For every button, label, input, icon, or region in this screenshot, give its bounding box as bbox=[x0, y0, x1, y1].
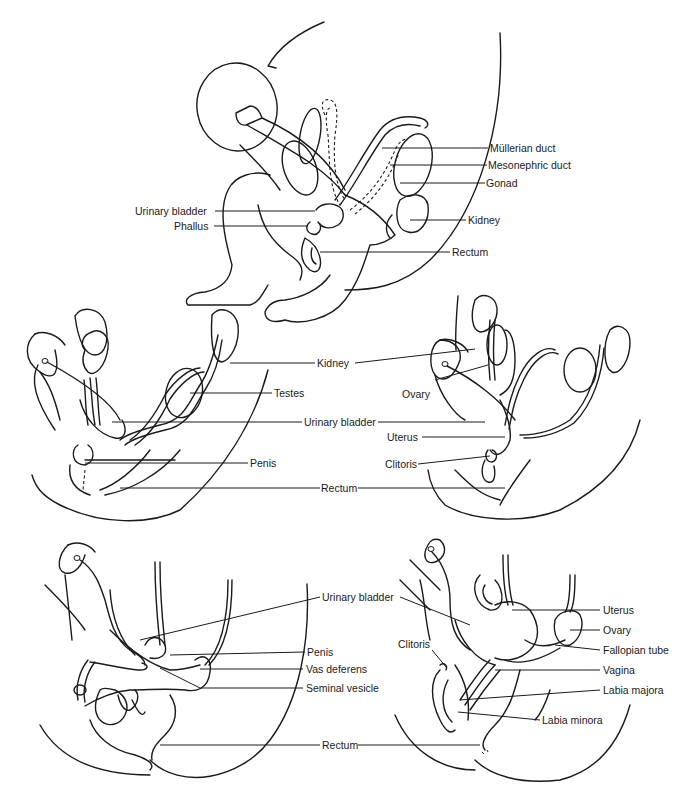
label-urinary-bladder-middle: Urinary bladder bbox=[304, 416, 376, 428]
female-developing-drawing bbox=[428, 296, 640, 519]
male-adult-drawing bbox=[40, 543, 308, 777]
indifferent-leaders bbox=[214, 148, 488, 252]
label-clitoris-female: Clitoris bbox=[398, 638, 430, 650]
label-rectum-bottom: Rectum bbox=[322, 739, 358, 751]
label-uterus-female: Uterus bbox=[603, 604, 634, 616]
label-mesonephric-duct: Mesonephric duct bbox=[488, 159, 571, 171]
label-urinary-bladder-indifferent: Urinary bladder bbox=[135, 205, 207, 217]
label-kidney-indifferent: Kidney bbox=[468, 214, 500, 226]
label-penis-middle: Penis bbox=[250, 457, 276, 469]
label-ovary-female: Ovary bbox=[603, 624, 631, 636]
label-kidney-middle: Kidney bbox=[317, 357, 349, 369]
label-mullerian-duct: Müllerian duct bbox=[490, 142, 555, 154]
label-urinary-bladder-male: Urinary bladder bbox=[322, 591, 394, 603]
female-adult-leaders bbox=[400, 597, 600, 720]
label-rectum-middle: Rectum bbox=[321, 482, 357, 494]
label-rectum-indifferent: Rectum bbox=[452, 246, 488, 258]
label-testes: Testes bbox=[274, 387, 304, 399]
label-labia-minora: Labia minora bbox=[542, 714, 603, 726]
label-ovary-middle: Ovary bbox=[402, 388, 430, 400]
label-penis-male: Penis bbox=[307, 646, 333, 658]
indifferent-stage-drawing bbox=[186, 22, 500, 322]
male-developing-drawing bbox=[27, 309, 268, 520]
label-fallopian-tube: Fallopian tube bbox=[603, 644, 669, 656]
label-gonad: Gonad bbox=[486, 177, 518, 189]
label-labia-majora: Labia majora bbox=[603, 684, 664, 696]
label-uterus-middle: Uterus bbox=[387, 431, 418, 443]
label-phallus: Phallus bbox=[174, 220, 208, 232]
label-vagina: Vagina bbox=[603, 664, 635, 676]
label-clitoris-middle: Clitoris bbox=[385, 458, 417, 470]
label-vas-deferens: Vas deferens bbox=[306, 663, 367, 675]
label-seminal-vesicle: Seminal vesicle bbox=[306, 682, 379, 694]
